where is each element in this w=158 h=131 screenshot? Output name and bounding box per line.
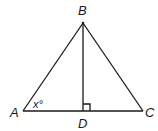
vertex-b-dot: [82, 22, 84, 24]
triangle-diagram: B A C D x°: [0, 0, 158, 131]
label-a: A: [9, 105, 19, 120]
angle-label-x: x°: [32, 98, 44, 110]
label-d: D: [78, 116, 87, 131]
label-c: C: [145, 105, 155, 120]
right-angle-marker: [83, 104, 90, 111]
label-b: B: [78, 3, 87, 18]
segment-ab: [23, 23, 83, 111]
segment-bc: [83, 23, 143, 111]
